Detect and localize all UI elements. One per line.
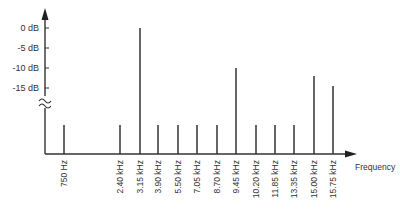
x-tick-label: 9.45 kHz [231, 160, 241, 194]
y-tick-label: -5 dB [17, 43, 39, 53]
x-tick-label: 2.40 kHz [115, 160, 125, 194]
x-axis-label: Frequency [355, 162, 396, 172]
axis-break-icon [39, 99, 51, 108]
x-tick-label: 3.90 kHz [153, 160, 163, 194]
plot-area: 0 dB-5 dB-10 dB-15 dBFrequency750 Hz2.40… [0, 0, 400, 213]
y-tick-label: -15 dB [12, 83, 39, 93]
x-tick-label: 3.15 kHz [135, 160, 145, 194]
x-tick-label: 15.75 kHz [328, 160, 338, 198]
y-tick-label: 0 dB [20, 23, 39, 33]
x-axis-arrow-icon [345, 151, 357, 158]
y-axis-arrow-icon [42, 8, 49, 20]
x-tick-label: 7.05 kHz [192, 160, 202, 194]
y-tick-label: -10 dB [12, 63, 39, 73]
x-tick-label: 15.00 kHz [309, 160, 319, 198]
x-tick-label: 13.35 kHz [289, 160, 299, 198]
x-tick-label: 11.85 kHz [270, 160, 280, 198]
spectrum-chart: 0 dB-5 dB-10 dB-15 dBFrequency750 Hz2.40… [0, 0, 400, 213]
x-tick-label: 5.50 kHz [173, 160, 183, 194]
x-tick-label: 8.70 kHz [212, 160, 222, 194]
x-tick-label: 10.20 kHz [251, 160, 261, 198]
x-tick-label: 750 Hz [59, 160, 69, 187]
